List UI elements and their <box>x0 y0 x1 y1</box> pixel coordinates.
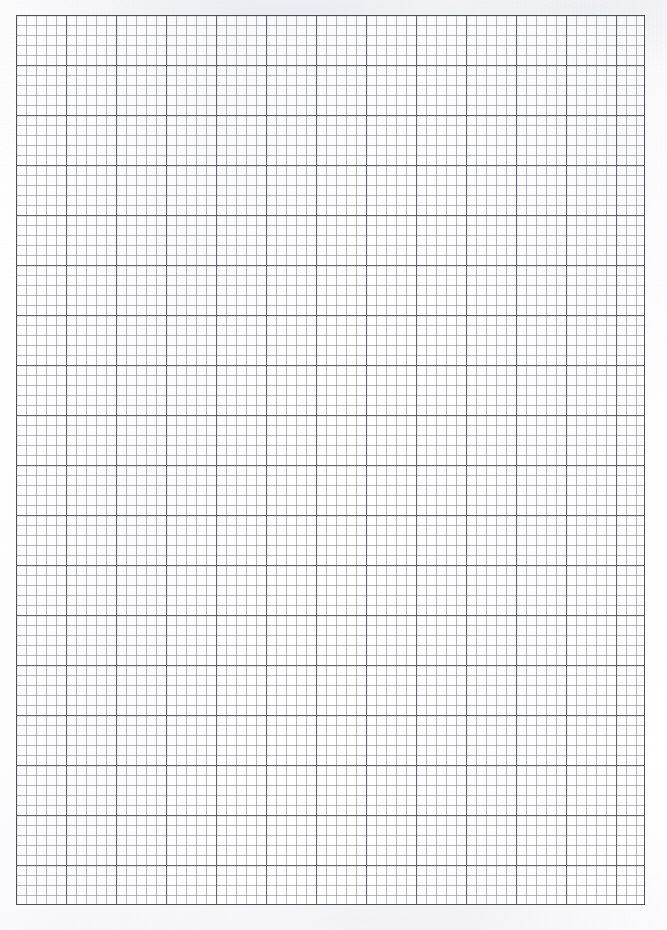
graph-paper-grid <box>16 15 645 905</box>
graph-paper-page: Scanned blank sheet of grid / graph pape… <box>0 0 667 930</box>
page-caption: Scanned blank sheet of grid / graph pape… <box>0 0 1 1</box>
grid-lines <box>16 15 645 905</box>
